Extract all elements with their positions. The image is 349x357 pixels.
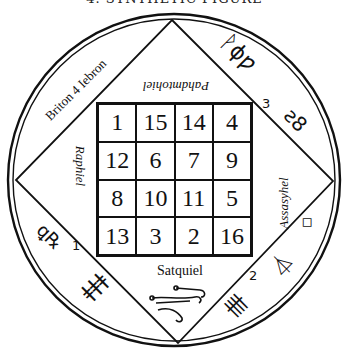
magic-square-grid: 1 15 14 4 12 6 7 9 8 10 11 5 13 3 2 16: [96, 102, 253, 257]
glyph-lower-right-num: 2: [249, 268, 257, 283]
square-cell: 5: [213, 180, 251, 218]
label-top: Pahdmtohiel: [128, 78, 224, 94]
label-bottom: Satquiel: [140, 263, 220, 279]
square-cell: 12: [98, 142, 136, 180]
label-left: Raphiel: [72, 136, 88, 196]
square-cell: 14: [175, 104, 213, 142]
square-cell: 8: [98, 180, 136, 218]
square-cell: 7: [175, 142, 213, 180]
square-cell: 1: [98, 104, 136, 142]
square-cell: 9: [213, 142, 251, 180]
square-cell: 13: [98, 217, 136, 255]
square-cell: 2: [175, 217, 213, 255]
glyph-lower-left-num: 1: [72, 238, 80, 253]
label-right: Assasyhel: [276, 167, 292, 239]
glyph-upper-right-num: 3: [262, 96, 270, 111]
square-cell: 3: [136, 217, 174, 255]
square-cell: 6: [136, 142, 174, 180]
square-cell: 11: [175, 180, 213, 218]
sigil-bottom: [150, 286, 205, 322]
square-cell: 16: [213, 217, 251, 255]
square-cell: 10: [136, 180, 174, 218]
square-cell: 4: [213, 104, 251, 142]
square-cell: 15: [136, 104, 174, 142]
